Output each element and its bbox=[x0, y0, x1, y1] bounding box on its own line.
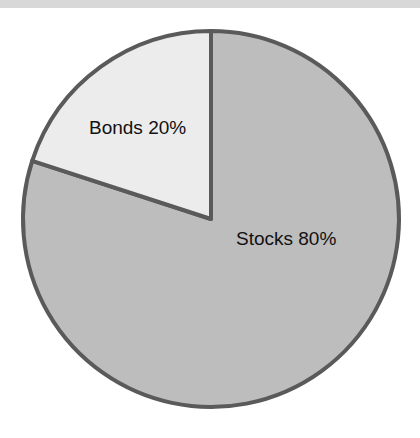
label-bonds: Bonds 20% bbox=[89, 117, 186, 139]
pie-chart bbox=[0, 0, 420, 438]
label-stocks: Stocks 80% bbox=[236, 228, 336, 250]
